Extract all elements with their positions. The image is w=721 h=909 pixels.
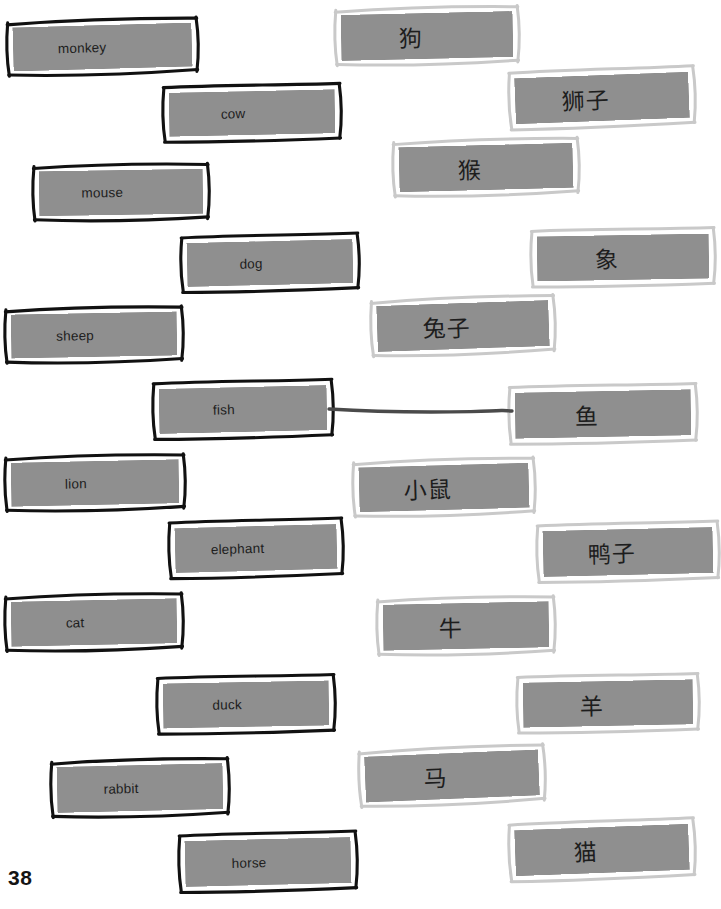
english-word-card-5[interactable]: sheep <box>8 308 181 361</box>
english-word-card-4[interactable]: dog <box>183 236 356 290</box>
chinese-word-card-11[interactable]: 马 <box>361 746 543 805</box>
chinese-word-card-9[interactable]: 牛 <box>379 598 552 654</box>
english-word-card-2[interactable]: cow <box>165 86 338 140</box>
chinese-word-card-12[interactable]: 猫 <box>511 821 693 880</box>
english-word-card-7[interactable]: lion <box>7 456 182 510</box>
english-word-card-1[interactable]: monkey <box>9 19 195 74</box>
chinese-word-label: 鱼 <box>512 395 695 432</box>
english-word-card-11[interactable]: rabbit <box>53 760 226 816</box>
chinese-word-card-7[interactable]: 小鼠 <box>355 460 532 516</box>
chinese-word-card-5[interactable]: 兔子 <box>373 297 553 355</box>
chinese-word-card-4[interactable]: 象 <box>534 230 713 284</box>
chinese-word-label: 猫 <box>511 830 692 871</box>
chinese-word-card-2[interactable]: 狮子 <box>511 69 693 128</box>
english-word-card-9[interactable]: cat <box>7 595 180 650</box>
chinese-word-card-10[interactable]: 羊 <box>520 676 697 730</box>
english-word-card-10[interactable]: duck <box>160 677 333 731</box>
chinese-word-card-8[interactable]: 鸭子 <box>539 524 716 580</box>
english-word-card-6[interactable]: fish <box>155 382 330 437</box>
chinese-word-label: 鸭子 <box>540 533 717 571</box>
chinese-word-label: 狮子 <box>511 78 692 119</box>
english-word-card-3[interactable]: mouse <box>36 166 207 220</box>
chinese-word-label: 兔子 <box>373 306 552 346</box>
chinese-word-label: 牛 <box>380 607 553 645</box>
english-word-card-12[interactable]: horse <box>181 834 354 890</box>
chinese-word-label: 羊 <box>520 685 697 722</box>
english-word-card-8[interactable]: elephant <box>171 521 340 576</box>
chinese-word-label: 小鼠 <box>356 468 533 507</box>
english-word-label: mouse <box>36 184 206 202</box>
chinese-word-card-3[interactable]: 猴 <box>395 140 576 196</box>
chinese-word-label: 猴 <box>396 148 577 187</box>
page-number: 38 <box>8 866 32 890</box>
chinese-word-label: 象 <box>534 239 713 276</box>
match-line-1[interactable] <box>329 409 512 412</box>
chinese-word-card-1[interactable]: 狗 <box>337 8 516 64</box>
chinese-word-card-6[interactable]: 鱼 <box>512 386 695 441</box>
chinese-word-label: 狗 <box>338 17 517 55</box>
